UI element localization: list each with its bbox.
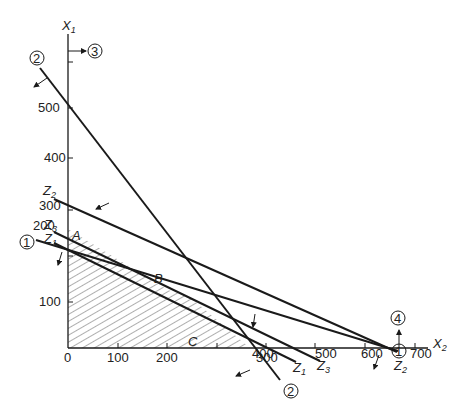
constraint-2-arrow-top <box>34 78 47 87</box>
objective-z1-label-right: Z1 <box>292 360 306 377</box>
x-tick-200: 200 <box>156 350 178 365</box>
lp-diagram: 0 100 200 300 400 500 600 700 100 200 30… <box>0 0 465 417</box>
x-tick-700: 700 <box>410 346 432 361</box>
constraint-4-label: 4 <box>394 311 401 326</box>
constraint-3-label: 3 <box>91 44 98 59</box>
constraint-2-label-top: 2 <box>33 51 40 66</box>
point-c-label: C <box>188 334 198 349</box>
y-tick-400: 400 <box>44 150 66 165</box>
x-tick-600: 600 <box>361 346 383 361</box>
constraint-2-label-bottom: 2 <box>287 384 294 399</box>
constraint-2-arrow-bottom <box>236 370 250 376</box>
y-tick-100: 100 <box>39 294 61 309</box>
objective-z2-label-left: Z2 <box>42 183 56 200</box>
x-tick-0: 0 <box>64 350 71 365</box>
objective-z2-label-right: Z2 <box>393 358 407 375</box>
y-axis-label: X1 <box>61 18 76 35</box>
z2-arrow <box>96 203 109 209</box>
point-a-label: A <box>71 228 81 243</box>
point-b-label: B <box>154 271 163 286</box>
x-tick-100: 100 <box>107 350 129 365</box>
z3-arrow <box>253 314 255 327</box>
x-axis-label: X2 <box>432 336 447 353</box>
constraint-1-label-left: 1 <box>23 235 30 250</box>
y-tick-500: 500 <box>38 100 60 115</box>
constraint-1-arrow-left <box>58 252 62 265</box>
